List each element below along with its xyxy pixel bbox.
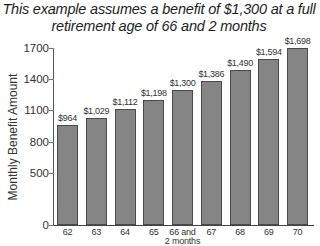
y-tick-label: 1400 [23, 73, 49, 85]
bar [258, 59, 279, 225]
bar [115, 109, 136, 225]
y-tick-label: 1100 [24, 104, 49, 116]
bar [287, 48, 308, 225]
bar-value-label: $1,698 [278, 36, 318, 46]
bar [201, 81, 222, 225]
y-tick [49, 110, 54, 111]
y-tick [49, 225, 54, 226]
bar-value-label: $1,300 [163, 78, 203, 88]
bar-value-label: $1,386 [191, 69, 231, 79]
y-tick [49, 173, 54, 174]
x-axis-line [53, 225, 314, 226]
bar-value-label: $1,490 [220, 58, 260, 68]
bar-value-label: $1,198 [134, 88, 174, 98]
y-tick [49, 79, 54, 80]
bar [172, 90, 193, 225]
bar [143, 100, 164, 225]
y-axis-line [53, 48, 54, 225]
plot-area: 0500800110014001700$96462$1,02963$1,1126… [0, 0, 318, 243]
bar [57, 125, 78, 225]
bar-value-label: $1,029 [76, 106, 116, 116]
x-category-label: 70 [273, 228, 320, 237]
bar [86, 118, 107, 225]
y-tick-label: 1700 [23, 42, 49, 54]
bar-value-label: $1,112 [105, 97, 145, 107]
y-tick [49, 142, 54, 143]
bar-value-label: $1,594 [249, 47, 289, 57]
y-tick-label: 800 [30, 136, 49, 148]
y-tick [49, 48, 54, 49]
bar [230, 70, 251, 225]
y-tick-label: 500 [30, 167, 49, 179]
